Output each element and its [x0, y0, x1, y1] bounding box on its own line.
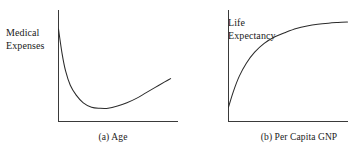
data-curve-panel-a [59, 29, 171, 108]
chart-panel-a: Medical Expenses (a) Age [0, 0, 190, 154]
chart-panel-b: Life Expectancy (b) Per Capita GNP [190, 0, 360, 154]
caption-panel-a: (a) Age [0, 131, 190, 143]
data-curve-panel-b [229, 22, 348, 107]
figure-root: Medical Expenses (a) Age Life Expectancy [0, 0, 360, 154]
caption-panel-b: (b) Per Capita GNP [190, 131, 360, 143]
